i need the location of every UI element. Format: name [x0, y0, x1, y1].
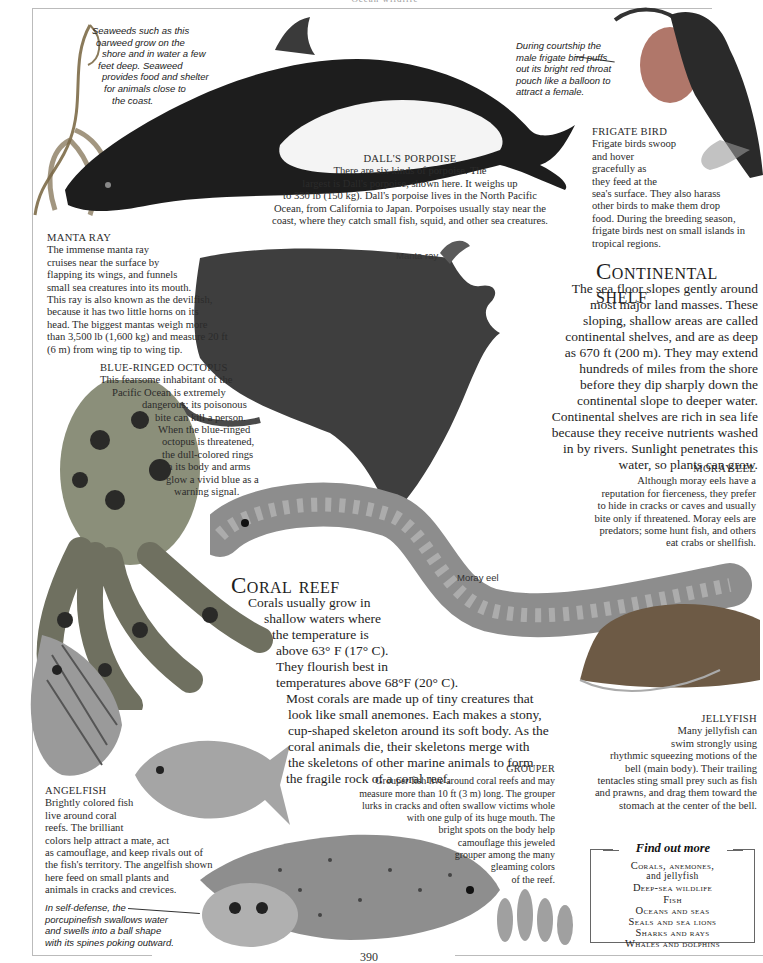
jellyfish-illustration: [560, 590, 763, 700]
find-out-more-list: Corals, anemones, and jellyfish Deep-sea…: [591, 860, 754, 950]
moray-eel-label: Moray eel: [457, 572, 499, 583]
seaweed-caption: Seaweeds such as this oarweed grow on th…: [92, 25, 209, 106]
find-out-more-item[interactable]: Deep-sea wildlife: [591, 882, 754, 893]
find-out-more-heading: Find out more: [613, 841, 733, 856]
running-head: Ocean wildlife: [300, 0, 470, 4]
find-out-more-item[interactable]: Sharks and rays: [591, 927, 754, 938]
find-out-more-box: Find out more Corals, anemones, and jell…: [590, 849, 755, 943]
page-frame-bottom-left: [32, 955, 152, 956]
entry-frigate-bird: Frigate bird Frigate birds swoop and hov…: [592, 126, 745, 250]
find-out-more-item[interactable]: Oceans and seas: [591, 905, 754, 916]
find-out-more-item[interactable]: and jellyfish: [591, 871, 754, 882]
frigate-courtship-caption: During courtship the male frigate bird p…: [516, 40, 611, 98]
angelfish-illustration: [22, 625, 132, 785]
find-out-more-item[interactable]: Seals and sea lions: [591, 916, 754, 927]
entry-moray-eel: Moray eel Although moray eels have a rep…: [540, 463, 756, 550]
page-frame-bottom-right: [455, 955, 763, 956]
entry-manta-ray: Manta ray The immense manta ray cruises …: [47, 232, 228, 356]
entry-jellyfish: Jellyfish Many jellyfish can swim strong…: [560, 713, 757, 812]
manta-ray-label: Manta ray: [396, 250, 438, 261]
section-body-coral-reef: Corals usually grow in shallow waters wh…: [248, 595, 549, 787]
find-out-more-item[interactable]: Fish: [591, 894, 754, 905]
entry-angelfish: Angelfish Brightly colored fish live aro…: [45, 785, 213, 897]
porcupinefish-caption: In self-defense, the porcupinefish swall…: [45, 902, 174, 948]
section-body-continental-shelf: The sea floor slopes gently around most …: [508, 281, 758, 473]
coral-illustration: [490, 880, 590, 950]
entry-blue-ringed-octopus: Blue-ringed octopus This fearsome inhabi…: [100, 362, 259, 498]
find-out-more-item[interactable]: Corals, anemones,: [591, 860, 754, 871]
page-number: 390: [360, 950, 378, 963]
find-out-more-item[interactable]: Whales and dolphins: [591, 938, 754, 949]
entry-porpoise: Dall's porpoise There are six kinds of p…: [260, 153, 560, 227]
